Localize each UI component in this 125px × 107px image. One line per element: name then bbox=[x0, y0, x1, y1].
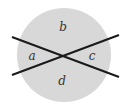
label-d: d bbox=[58, 74, 66, 88]
label-c: c bbox=[89, 49, 96, 63]
label-a: a bbox=[28, 49, 35, 63]
diagram-canvas: b a c d bbox=[0, 0, 125, 107]
label-b: b bbox=[59, 20, 67, 34]
